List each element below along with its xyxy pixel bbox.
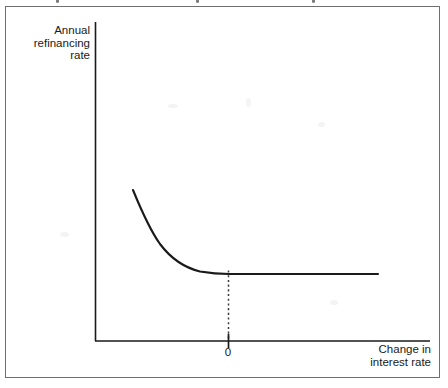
x-axis-label: Change in interest rate bbox=[345, 343, 431, 368]
figure-container: Annual refinancing rate Change in intere… bbox=[0, 0, 448, 388]
zero-tick-label: 0 bbox=[214, 346, 242, 359]
refinancing-rate-curve bbox=[133, 190, 378, 274]
y-axis-label: Annual refinancing rate bbox=[14, 24, 90, 62]
